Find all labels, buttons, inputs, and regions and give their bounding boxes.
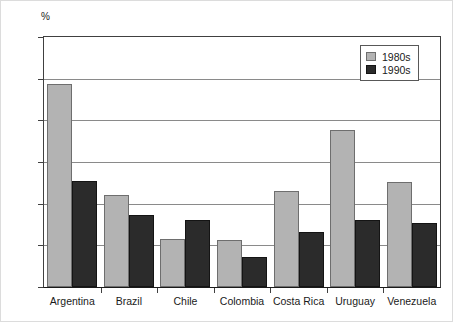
- x-axis-category-label: Venezuela: [387, 295, 436, 307]
- legend-label-1990s: 1990s: [382, 64, 411, 76]
- bar: [387, 182, 412, 287]
- legend-swatch-1990s-icon: [366, 65, 376, 74]
- x-axis-category-label: Chile: [173, 295, 197, 307]
- legend: 1980s 1990s: [360, 45, 419, 81]
- legend-label-1980s: 1980s: [382, 51, 411, 63]
- bar-chart-figure: % 0102030405060 ArgentinaBrazilChileColo…: [0, 0, 453, 322]
- legend-item-1990s: 1990s: [366, 63, 411, 76]
- x-axis-category-label: Argentina: [50, 295, 95, 307]
- x-axis-tick-mark: [101, 288, 102, 293]
- x-axis-tick-mark: [214, 288, 215, 293]
- y-axis-unit-label: %: [41, 11, 50, 22]
- x-axis-tick-mark: [383, 288, 384, 293]
- x-axis-category-label: Uruguay: [335, 295, 375, 307]
- x-axis-tick-mark: [270, 288, 271, 293]
- legend-item-1980s: 1980s: [366, 50, 411, 63]
- bar: [412, 223, 437, 287]
- x-axis-tick-mark: [327, 288, 328, 293]
- x-axis-tick-mark: [157, 288, 158, 293]
- x-axis-category-label: Brazil: [116, 295, 142, 307]
- x-axis-category-label: Costa Rica: [273, 295, 324, 307]
- legend-swatch-1980s-icon: [366, 52, 376, 61]
- x-axis-category-label: Colombia: [220, 295, 264, 307]
